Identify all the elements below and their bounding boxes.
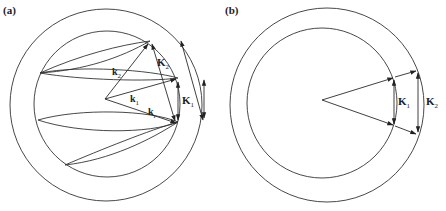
- label-K1-b: K1: [398, 95, 411, 110]
- inner-circle-a: [34, 31, 180, 177]
- outer-circle-a: [10, 9, 202, 201]
- label-kr: kr: [148, 106, 157, 120]
- ray-lower-inner: [322, 100, 393, 125]
- ray-upper-inner: [322, 78, 393, 100]
- diagram-canvas: (a) k2 k1 kr K2 K1 (b): [0, 0, 446, 211]
- label-K2-b: K2: [426, 95, 439, 110]
- outer-circle-b: [230, 8, 424, 202]
- panel-a-label: (a): [3, 4, 16, 17]
- vector-kr: [105, 99, 176, 123]
- inner-circle-b: [247, 28, 397, 178]
- panel-b-label: (b): [225, 4, 239, 17]
- label-K2-a: K2: [157, 56, 170, 71]
- panel-b: (b) K1 K2: [225, 4, 439, 202]
- panel-a: (a) k2 k1 kr K2 K1: [3, 4, 204, 201]
- ray-lower-outer: [395, 126, 416, 134]
- label-K1-a: K1: [182, 94, 195, 109]
- ray-upper-outer: [395, 71, 416, 77]
- label-k2: k2: [112, 66, 122, 80]
- label-k1: k1: [130, 93, 140, 107]
